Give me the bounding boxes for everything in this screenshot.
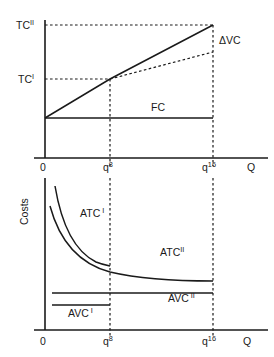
unit-cost-chart: Costs ATCI ATCII AVCII AVCI 0 q8 q16 Q [18, 178, 268, 347]
top-x-origin-label: 0 [40, 161, 46, 173]
bottom-x-q8-label: q8 [103, 334, 113, 347]
tc1-axis-label: TCI [18, 72, 34, 85]
fc-annotation: FC [151, 101, 165, 113]
atc2-annotation: ATCII [160, 245, 184, 258]
delta-vc-annotation: ΔVC [219, 34, 241, 46]
costs-axis-label: Costs [18, 198, 30, 225]
top-x-q16-label: q16 [202, 160, 216, 173]
atc1-curve [55, 186, 110, 266]
avc1-annotation: AVCI [68, 306, 93, 319]
economics-cost-curves-figure: TCII TCI FC ΔVC 0 q8 q16 Q Costs A [0, 0, 274, 357]
bottom-x-axis-title: Q [243, 335, 251, 347]
total-cost-chart: TCII TCI FC ΔVC 0 q8 q16 Q [16, 18, 268, 173]
bottom-x-q16-label: q16 [202, 334, 216, 347]
bottom-x-origin-label: 0 [40, 335, 46, 347]
top-x-q8-label: q8 [103, 160, 113, 173]
tc-curve [45, 25, 213, 118]
avc2-annotation: AVCII [168, 291, 195, 304]
atc1-annotation: ATCI [80, 206, 104, 219]
top-x-axis-title: Q [247, 161, 255, 173]
tc2-axis-label: TCII [16, 18, 34, 31]
delta-vc-line [110, 52, 213, 79]
